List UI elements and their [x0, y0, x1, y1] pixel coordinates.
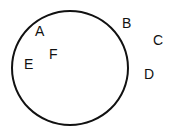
point-label-e: E — [24, 57, 33, 71]
point-label-d: D — [144, 67, 154, 81]
point-label-f: F — [49, 47, 58, 61]
point-label-b: B — [122, 16, 131, 30]
diagram-canvas: A B C D E F — [0, 0, 174, 133]
point-label-a: A — [35, 24, 44, 38]
point-label-c: C — [153, 33, 163, 47]
